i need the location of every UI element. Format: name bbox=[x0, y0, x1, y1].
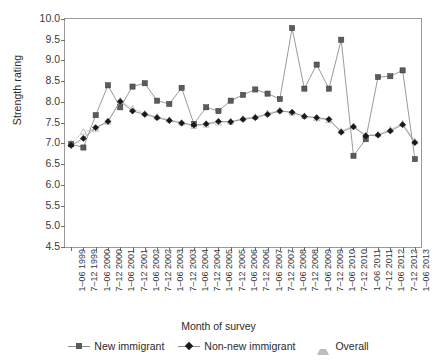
data-point-marker bbox=[339, 37, 344, 42]
y-tick-label: 7.0 bbox=[26, 137, 60, 147]
plot-area bbox=[64, 18, 422, 248]
x-axis-tick-labels: 1–06 19997–12 19991–06 20007–12 20001–06… bbox=[64, 249, 422, 319]
x-tick-label: 1–06 2003 bbox=[172, 249, 182, 292]
data-point-marker bbox=[142, 111, 148, 117]
square-marker-icon bbox=[68, 342, 90, 351]
data-point-marker bbox=[314, 62, 319, 67]
y-tick-mark bbox=[61, 123, 65, 124]
x-tick-label: 1–06 1999 bbox=[74, 249, 84, 292]
data-point-marker bbox=[400, 68, 405, 73]
y-tick-label: 5.0 bbox=[26, 220, 60, 230]
y-tick-label: 9.5 bbox=[26, 34, 60, 44]
x-tick-label: 1–06 2012 bbox=[393, 249, 403, 292]
series-new-immigrant bbox=[69, 26, 418, 162]
x-tick-label: 7–12 2006 bbox=[258, 249, 268, 292]
x-tick-label: 7–12 2003 bbox=[185, 249, 195, 292]
x-tick-label: 7–12 2002 bbox=[160, 249, 170, 292]
y-tick-label: 10.0 bbox=[26, 13, 60, 23]
chart-figure: Strength rating 10.09.59.08.58.07.57.06.… bbox=[0, 0, 437, 364]
x-tick-label: 1–06 2002 bbox=[148, 249, 158, 292]
x-tick-label: 7–12 2009 bbox=[332, 249, 342, 292]
data-point-marker bbox=[154, 98, 159, 103]
y-tick-mark bbox=[61, 247, 65, 248]
x-tick-label: 1–06 2009 bbox=[320, 249, 330, 292]
chart-legend: New immigrantNon-new immigrantOverall bbox=[0, 340, 437, 352]
triangle-marker-icon bbox=[309, 342, 331, 351]
data-point-marker bbox=[142, 81, 147, 86]
x-tick-label: 1–06 2000 bbox=[99, 249, 109, 292]
legend-item-label: Non-new immigrant bbox=[204, 340, 295, 352]
y-tick-label: 8.0 bbox=[26, 96, 60, 106]
x-tick-label: 1–06 2006 bbox=[246, 249, 256, 292]
data-point-marker bbox=[167, 101, 172, 106]
data-point-marker bbox=[179, 85, 184, 90]
data-point-marker bbox=[154, 115, 160, 121]
y-tick-mark bbox=[61, 60, 65, 61]
y-tick-label: 9.0 bbox=[26, 54, 60, 64]
y-tick-mark bbox=[61, 102, 65, 103]
y-tick-mark bbox=[61, 206, 65, 207]
data-point-marker bbox=[351, 153, 356, 158]
x-tick-label: 7–12 2008 bbox=[307, 249, 317, 292]
y-tick-label: 6.5 bbox=[26, 158, 60, 168]
y-tick-mark bbox=[61, 40, 65, 41]
diamond-marker-icon bbox=[178, 342, 200, 351]
data-point-marker bbox=[240, 116, 246, 122]
x-tick-label: 7–12 2000 bbox=[111, 249, 121, 292]
x-tick-label: 7–12 2011 bbox=[381, 249, 391, 291]
series-canvas bbox=[65, 19, 421, 247]
x-tick-label: 1–06 2001 bbox=[123, 249, 133, 292]
x-tick-label: 7–12 2004 bbox=[209, 249, 219, 292]
data-point-marker bbox=[264, 111, 270, 117]
data-point-marker bbox=[216, 108, 221, 113]
x-tick-label: 7–12 1999 bbox=[86, 249, 96, 292]
y-tick-mark bbox=[61, 81, 65, 82]
x-tick-label: 1–06 2013 bbox=[418, 249, 428, 292]
data-point-marker bbox=[277, 108, 283, 114]
y-tick-mark bbox=[61, 226, 65, 227]
y-tick-mark bbox=[61, 19, 65, 20]
legend-item-new-immigrant: New immigrant bbox=[68, 340, 164, 352]
x-tick-label: 1–06 2008 bbox=[295, 249, 305, 292]
x-tick-label: 7–12 2010 bbox=[356, 249, 366, 292]
data-point-marker bbox=[326, 86, 331, 91]
x-tick-label: 1–06 2011 bbox=[369, 249, 379, 291]
data-point-marker bbox=[252, 115, 258, 121]
x-tick-label: 7–12 2007 bbox=[283, 249, 293, 292]
y-tick-label: 4.5 bbox=[26, 241, 60, 251]
data-point-marker bbox=[290, 26, 295, 31]
data-point-marker bbox=[412, 157, 417, 162]
y-tick-mark bbox=[61, 185, 65, 186]
data-point-marker bbox=[253, 87, 258, 92]
data-point-marker bbox=[118, 105, 123, 110]
y-tick-mark bbox=[61, 143, 65, 144]
data-point-marker bbox=[277, 96, 282, 101]
y-tick-label: 5.5 bbox=[26, 200, 60, 210]
data-point-marker bbox=[265, 91, 270, 96]
y-axis-tick-labels: 10.09.59.08.58.07.57.06.56.05.55.04.5 bbox=[22, 0, 60, 364]
y-tick-label: 7.5 bbox=[26, 117, 60, 127]
data-point-marker bbox=[130, 84, 135, 89]
data-point-marker bbox=[228, 98, 233, 103]
data-point-marker bbox=[375, 132, 381, 138]
data-point-marker bbox=[105, 83, 110, 88]
data-point-marker bbox=[375, 74, 380, 79]
data-point-marker bbox=[166, 117, 172, 123]
data-point-marker bbox=[302, 86, 307, 91]
data-point-marker bbox=[204, 105, 209, 110]
y-tick-label: 8.5 bbox=[26, 75, 60, 85]
x-tick-label: 1–06 2005 bbox=[221, 249, 231, 292]
data-point-marker bbox=[93, 113, 98, 118]
data-point-marker bbox=[240, 92, 245, 97]
x-tick-label: 1–06 2010 bbox=[344, 249, 354, 292]
data-point-marker bbox=[81, 145, 86, 150]
x-tick-label: 7–12 2012 bbox=[406, 249, 416, 292]
legend-item-non-new-immigrant: Non-new immigrant bbox=[178, 340, 295, 352]
x-tick-label: 7–12 2001 bbox=[136, 249, 146, 292]
legend-item-label: Overall bbox=[335, 340, 368, 352]
legend-item-label: New immigrant bbox=[94, 340, 164, 352]
x-axis-title: Month of survey bbox=[0, 320, 437, 332]
y-tick-label: 6.0 bbox=[26, 179, 60, 189]
x-tick-label: 1–06 2004 bbox=[197, 249, 207, 292]
y-tick-mark bbox=[61, 164, 65, 165]
